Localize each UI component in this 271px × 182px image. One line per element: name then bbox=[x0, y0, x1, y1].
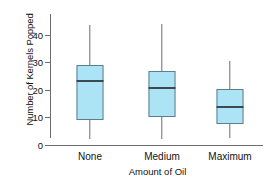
y-tick-label: 30 bbox=[32, 57, 43, 68]
y-tick-label: 20 bbox=[32, 84, 43, 95]
y-tick-mark bbox=[45, 90, 50, 91]
y-tick-mark bbox=[45, 117, 50, 118]
y-tick-label: 0 bbox=[38, 140, 43, 151]
y-axis-line bbox=[50, 14, 51, 138]
whisker-upper bbox=[89, 25, 90, 65]
y-tick-mark bbox=[45, 62, 50, 63]
whisker-lower bbox=[89, 120, 90, 139]
y-tick-mark bbox=[45, 35, 50, 36]
y-tick-mark bbox=[45, 145, 50, 146]
y-tick-label: 10 bbox=[32, 112, 43, 123]
median-line bbox=[217, 106, 244, 107]
boxplot-chart: Number of Kernels Popped 010203040 NoneM… bbox=[0, 0, 271, 182]
whisker-lower bbox=[161, 117, 162, 139]
x-axis-title: Amount of Oil bbox=[50, 166, 265, 177]
category-label-none: None bbox=[78, 151, 102, 162]
median-line bbox=[149, 87, 176, 88]
median-line bbox=[77, 80, 104, 81]
y-tick-label: 40 bbox=[32, 29, 43, 40]
whisker-upper bbox=[229, 61, 230, 89]
whisker-upper bbox=[161, 24, 162, 71]
category-label-maximum: Maximum bbox=[208, 151, 251, 162]
plot-area: 010203040 NoneMediumMaximum bbox=[50, 14, 265, 138]
box-iqr bbox=[77, 65, 104, 120]
whisker-lower bbox=[229, 124, 230, 138]
category-label-medium: Medium bbox=[144, 151, 180, 162]
box-iqr bbox=[149, 71, 176, 118]
x-axis-line bbox=[50, 145, 263, 146]
